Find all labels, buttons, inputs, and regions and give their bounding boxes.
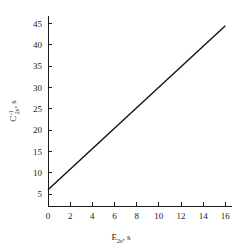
line-chart: 0246810121416 51015202530354045 E2s, s C…	[0, 0, 242, 248]
y-tick-label: 20	[33, 125, 43, 135]
y-tick-label: 45	[33, 19, 43, 29]
y-axis-title: C-12s, s	[8, 100, 20, 122]
y-tick-label: 10	[33, 168, 43, 178]
x-tick-label: 8	[134, 211, 139, 221]
x-tick-label: 2	[68, 211, 73, 221]
x-tick-label: 6	[112, 211, 117, 221]
y-tick-label: 5	[38, 189, 43, 199]
x-axis-ticks	[48, 202, 225, 206]
x-axis-tick-labels: 0246810121416	[46, 211, 231, 221]
data-line	[48, 26, 225, 190]
data-series-group	[48, 26, 225, 190]
chart-container: 0246810121416 51015202530354045 E2s, s C…	[0, 0, 242, 248]
x-tick-label: 12	[177, 211, 186, 221]
x-tick-label: 10	[154, 211, 164, 221]
x-tick-label: 0	[46, 211, 51, 221]
x-axis-title: E2s, s	[112, 232, 131, 244]
y-tick-label: 35	[33, 61, 43, 71]
y-axis-tick-labels: 51015202530354045	[33, 19, 43, 199]
x-tick-label: 4	[90, 211, 95, 221]
y-axis-ticks	[48, 24, 52, 194]
y-tick-label: 15	[33, 147, 43, 157]
y-tick-label: 40	[33, 40, 43, 50]
y-tick-label: 25	[33, 104, 43, 114]
y-tick-label: 30	[33, 83, 43, 93]
x-tick-label: 14	[199, 211, 209, 221]
x-tick-label: 16	[221, 211, 231, 221]
